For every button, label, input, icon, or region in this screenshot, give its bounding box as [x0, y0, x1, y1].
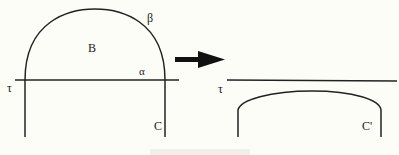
flattened-dome-curve	[238, 91, 381, 137]
label-C-prime: C'	[362, 120, 372, 132]
diagram-canvas	[0, 0, 399, 155]
tau-line-right	[227, 80, 397, 81]
cropped-caption	[150, 149, 250, 155]
transform-arrow-icon	[175, 51, 225, 68]
label-tau-left: τ	[7, 82, 12, 94]
label-B: B	[88, 42, 96, 54]
label-alpha: α	[139, 66, 145, 77]
label-C: C	[154, 120, 162, 132]
label-tau-right: τ	[218, 83, 223, 95]
label-beta-greek: β	[147, 12, 153, 24]
